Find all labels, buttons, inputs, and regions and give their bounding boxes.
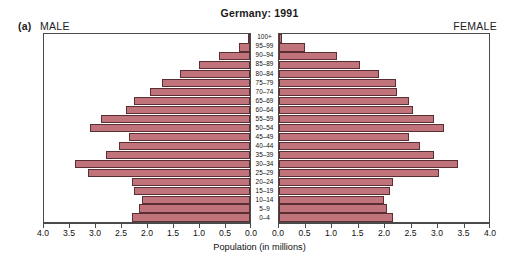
- bar-male-60-64[interactable]: [126, 106, 250, 114]
- age-label-75-79: 75–79: [251, 78, 278, 87]
- age-label-5-9: 5–9: [251, 205, 278, 214]
- bar-female-75-79[interactable]: [279, 79, 396, 87]
- bar-male-45-49[interactable]: [129, 133, 250, 141]
- bar-male-35-39[interactable]: [106, 151, 250, 159]
- age-group-axis: 0–45–910–1415–1920–2425–2930–3435–3940–4…: [251, 33, 278, 223]
- bar-female-80-84[interactable]: [279, 70, 379, 78]
- bar-female-35-39[interactable]: [279, 151, 434, 159]
- x-tick-label: 0.5: [299, 228, 311, 238]
- bar-row: [44, 213, 250, 222]
- age-label-50-54: 50–54: [251, 123, 278, 132]
- age-label-85-89: 85–89: [251, 60, 278, 69]
- bar-female-90-94[interactable]: [279, 52, 337, 60]
- x-tick-label: 3.5: [458, 228, 470, 238]
- age-label-45-49: 45–49: [251, 133, 278, 142]
- bar-male-80-84[interactable]: [180, 70, 250, 78]
- bar-row: [44, 61, 250, 70]
- bar-male-25-29[interactable]: [88, 169, 250, 177]
- bar-row: [279, 141, 489, 150]
- x-tick-label: 0.0: [272, 228, 284, 238]
- bar-row: [279, 88, 489, 97]
- x-tick-label: 1.0: [325, 228, 337, 238]
- female-bar-rows: [279, 34, 489, 222]
- age-label-100+: 100+: [251, 33, 278, 42]
- age-label-15-19: 15–19: [251, 187, 278, 196]
- age-label-20-24: 20–24: [251, 178, 278, 187]
- bar-female-45-49[interactable]: [279, 133, 409, 141]
- bar-male-0-4[interactable]: [132, 213, 250, 221]
- bar-male-70-74[interactable]: [150, 88, 250, 96]
- x-tick-label: 2.5: [115, 228, 127, 238]
- x-tick-label: 3.0: [431, 228, 443, 238]
- bar-row: [44, 141, 250, 150]
- bar-row: [279, 115, 489, 124]
- x-tick-label: 0.5: [219, 228, 231, 238]
- female-plot-panel: [278, 33, 490, 223]
- bar-row: [279, 61, 489, 70]
- x-tick-label: 4.0: [484, 228, 496, 238]
- bar-male-50-54[interactable]: [90, 124, 250, 132]
- age-label-0-4: 0–4: [251, 214, 278, 223]
- bar-male-5-9[interactable]: [139, 204, 250, 212]
- bar-row: [279, 70, 489, 79]
- bar-female-20-24[interactable]: [279, 178, 393, 186]
- bar-male-15-19[interactable]: [134, 187, 250, 195]
- bar-female-30-34[interactable]: [279, 160, 458, 168]
- age-label-90-94: 90–94: [251, 51, 278, 60]
- bar-female-70-74[interactable]: [279, 88, 397, 96]
- bar-male-100+[interactable]: [248, 34, 250, 42]
- bar-female-15-19[interactable]: [279, 187, 390, 195]
- age-label-40-44: 40–44: [251, 142, 278, 151]
- x-tick-label: 2.5: [405, 228, 417, 238]
- bar-female-25-29[interactable]: [279, 169, 439, 177]
- x-tick-label: 1.5: [167, 228, 179, 238]
- bar-row: [279, 97, 489, 106]
- bar-male-85-89[interactable]: [199, 61, 251, 69]
- bar-male-65-69[interactable]: [134, 97, 250, 105]
- bar-male-95-99[interactable]: [239, 43, 250, 51]
- bar-female-95-99[interactable]: [279, 43, 305, 51]
- bar-male-90-94[interactable]: [219, 52, 250, 60]
- bar-male-10-14[interactable]: [142, 196, 250, 204]
- bar-row: [279, 124, 489, 133]
- bar-male-40-44[interactable]: [119, 142, 250, 150]
- bar-row: [279, 186, 489, 195]
- bar-female-100+[interactable]: [279, 34, 282, 42]
- x-tick-label: 3.0: [89, 228, 101, 238]
- bar-male-55-59[interactable]: [101, 115, 250, 123]
- bar-male-30-34[interactable]: [75, 160, 250, 168]
- x-tick-label: 2.0: [378, 228, 390, 238]
- male-bar-rows: [44, 34, 250, 222]
- bar-row: [279, 168, 489, 177]
- age-label-10-14: 10–14: [251, 196, 278, 205]
- bar-female-10-14[interactable]: [279, 196, 384, 204]
- x-tick-label: 1.5: [352, 228, 364, 238]
- bar-row: [279, 34, 489, 43]
- bar-row: [279, 43, 489, 52]
- bar-row: [44, 132, 250, 141]
- female-x-tick-labels: 0.00.51.01.52.02.53.03.54.0: [278, 228, 490, 241]
- bar-female-65-69[interactable]: [279, 97, 409, 105]
- bar-female-55-59[interactable]: [279, 115, 434, 123]
- bar-female-50-54[interactable]: [279, 124, 444, 132]
- bar-row: [44, 97, 250, 106]
- chart-title: Germany: 1991: [0, 7, 519, 19]
- bar-female-85-89[interactable]: [279, 61, 360, 69]
- bar-row: [279, 213, 489, 222]
- bar-male-75-79[interactable]: [162, 79, 250, 87]
- age-label-80-84: 80–84: [251, 69, 278, 78]
- bar-female-0-4[interactable]: [279, 213, 393, 221]
- bar-row: [44, 204, 250, 213]
- bar-row: [279, 177, 489, 186]
- figure-panel-letter: (a): [18, 20, 31, 32]
- bar-female-40-44[interactable]: [279, 142, 420, 150]
- bar-row: [279, 159, 489, 168]
- bar-male-20-24[interactable]: [132, 178, 250, 186]
- bar-row: [44, 70, 250, 79]
- bar-row: [279, 106, 489, 115]
- bar-female-5-9[interactable]: [279, 204, 387, 212]
- bar-row: [44, 159, 250, 168]
- x-tick-label: 4.0: [37, 228, 49, 238]
- bar-female-60-64[interactable]: [279, 106, 413, 114]
- bar-row: [44, 43, 250, 52]
